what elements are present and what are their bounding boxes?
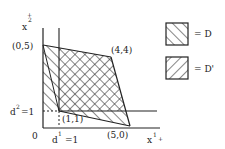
hatch-forward-swatch [166,23,188,45]
y-axis-label: x 2 + [22,11,32,32]
svg-text:x: x [147,135,152,145]
d2-label: d 2 =1 [10,103,34,117]
legend-item-d-prime: = D' [166,57,214,79]
point-label-1-1: (1,1) [62,114,83,124]
svg-text:=1: =1 [65,135,78,145]
svg-text:+: + [158,135,163,142]
svg-text:= D: = D [194,29,212,39]
point-label-5-0: (5,0) [107,130,128,140]
d1-label: d 1 =1 [52,130,78,145]
svg-text:1: 1 [58,130,62,137]
point-label-0-5: (0,5) [12,41,33,51]
origin-label: 0 [32,131,38,141]
legend-item-d: = D [166,23,212,45]
svg-text:2: 2 [16,103,20,110]
hatch-backward-swatch [166,57,188,79]
svg-text:+: + [27,11,32,18]
svg-text:=1: =1 [21,107,34,117]
svg-text:x: x [22,22,27,32]
x-axis-label: x 1 + [147,131,163,145]
diagram-canvas: x 2 + x 1 + 0 (0,5) (4,4) (5,0) (1,1) d … [0,0,225,149]
svg-text:= D': = D' [194,64,214,74]
legend: = D = D' [166,23,214,79]
svg-text:1: 1 [153,131,157,138]
point-label-4-4: (4,4) [111,45,132,55]
